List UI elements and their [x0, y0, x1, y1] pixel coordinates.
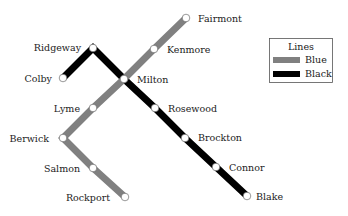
transit-map: Fairmont Kenmore Ridgeway Colby Milton L…	[0, 0, 348, 216]
station-lyme-label: Lyme	[54, 103, 81, 114]
station-berwick-marker[interactable]	[59, 134, 67, 142]
station-ridgeway-marker[interactable]	[89, 44, 97, 52]
station-rosewood-marker[interactable]	[151, 104, 159, 112]
station-kenmore-label: Kenmore	[167, 44, 211, 55]
black-line	[63, 48, 247, 196]
station-ridgeway-label: Ridgeway	[34, 42, 82, 53]
legend-swatch-black	[273, 71, 300, 77]
station-milton-marker[interactable]	[120, 75, 128, 83]
legend-title: Lines	[288, 41, 314, 52]
station-milton-label: Milton	[137, 74, 168, 85]
station-rockport-label: Rockport	[66, 192, 110, 203]
station-blake-label: Blake	[256, 191, 283, 202]
station-brockton-label: Brockton	[198, 132, 242, 143]
station-rosewood-label: Rosewood	[168, 103, 217, 114]
station-berwick-label: Berwick	[10, 133, 50, 144]
station-colby-label: Colby	[25, 73, 53, 84]
legend: Lines Blue Black	[270, 39, 333, 83]
station-blake-marker[interactable]	[243, 192, 251, 200]
station-fairmont-label: Fairmont	[198, 13, 242, 24]
station-salmon-label: Salmon	[44, 163, 80, 174]
station-colby-marker[interactable]	[59, 74, 67, 82]
station-connor-marker[interactable]	[212, 163, 220, 171]
station-salmon-marker[interactable]	[89, 164, 97, 172]
legend-swatch-blue	[273, 57, 300, 63]
station-fairmont-marker[interactable]	[182, 14, 190, 22]
station-lyme-marker[interactable]	[89, 104, 97, 112]
station-connor-label: Connor	[229, 162, 265, 173]
station-brockton-marker[interactable]	[181, 134, 189, 142]
station-kenmore-marker[interactable]	[150, 45, 158, 53]
station-rockport-marker[interactable]	[121, 193, 129, 201]
legend-label-blue: Blue	[305, 54, 327, 65]
legend-label-black: Black	[305, 68, 332, 79]
